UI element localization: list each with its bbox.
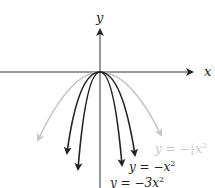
label-text: y = −x: [129, 160, 170, 174]
graph-canvas: y x y = −14x2 y = −x2 y = −3x2: [0, 0, 215, 188]
exponent: 2: [170, 159, 175, 168]
exponent: 2: [159, 175, 164, 184]
curve-neg-quarter-x-squared-right: [100, 72, 161, 135]
curve-neg-three-x-squared-right: [100, 72, 122, 165]
x-axis-label: x: [204, 65, 211, 78]
label-neg-three-x-squared: y = −3x2: [110, 176, 164, 188]
label-text: y = −3x: [110, 176, 159, 188]
exponent: 2: [202, 141, 207, 150]
y-axis-label: y: [96, 11, 103, 24]
curve-neg-x-squared: [67, 72, 100, 153]
label-neg-x-squared: y = −x2: [129, 160, 175, 173]
curve-neg-quarter-x-squared: [38, 72, 100, 140]
fraction: 14: [191, 143, 195, 156]
label-neg-quarter-x-squared: y = −14x2: [155, 142, 207, 156]
curve-neg-x-squared-right: [100, 72, 135, 155]
label-text: y = −: [155, 142, 190, 156]
fraction-denominator: 4: [191, 150, 195, 156]
curve-neg-three-x-squared: [78, 72, 100, 169]
parabola-plot: [0, 0, 215, 188]
